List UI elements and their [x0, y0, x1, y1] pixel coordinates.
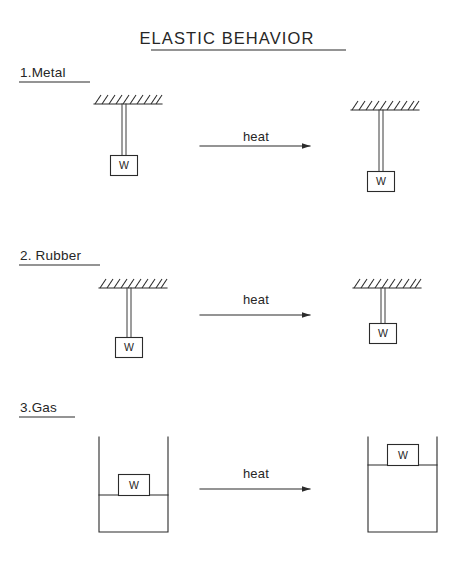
rubber-before-weight: W — [116, 338, 143, 358]
rubber-after-weight-label: W — [378, 327, 388, 339]
section-gas-label-text: 3.Gas — [20, 400, 57, 415]
section-metal-label: 1.Metal — [19, 65, 90, 82]
metal-before-weight-label: W — [119, 159, 129, 171]
rubber-before-assembly: W — [99, 279, 167, 358]
section-gas: 3.Gas W heat — [19, 400, 437, 532]
metal-after-ceiling-icon — [351, 101, 419, 110]
rubber-heat-arrow: heat — [200, 292, 310, 315]
metal-heat-arrow-label: heat — [243, 129, 269, 144]
section-metal-label-text: 1.Metal — [20, 65, 66, 80]
gas-before-weight-label: W — [129, 479, 139, 491]
gas-after-weight: W — [388, 445, 419, 466]
metal-before-weight: W — [111, 156, 138, 176]
rubber-before-ceiling-icon — [99, 279, 167, 288]
section-rubber-label: 2. Rubber — [19, 248, 100, 265]
metal-after-weight: W — [368, 172, 395, 192]
section-gas-label: 3.Gas — [19, 400, 75, 417]
metal-before-ceiling-icon — [94, 95, 162, 104]
metal-before-assembly: W — [94, 95, 162, 176]
rubber-after-assembly: W — [353, 279, 421, 344]
gas-heat-arrow-label: heat — [243, 466, 269, 481]
rubber-heat-arrow-label: heat — [243, 292, 269, 307]
gas-after-assembly: W — [368, 437, 437, 532]
section-rubber-label-text: 2. Rubber — [20, 248, 81, 263]
gas-heat-arrow: heat — [200, 466, 310, 489]
metal-heat-arrow: heat — [200, 129, 310, 146]
section-metal: 1.Metal W heat — [19, 65, 419, 192]
rubber-after-ceiling-icon — [353, 279, 421, 288]
section-rubber: 2. Rubber W heat — [19, 248, 421, 358]
elastic-behavior-figure: ELASTIC BEHAVIOR 1.Metal W — [0, 0, 455, 565]
gas-before-weight: W — [119, 475, 150, 496]
gas-after-weight-label: W — [398, 449, 408, 461]
page-title: ELASTIC BEHAVIOR — [139, 29, 346, 50]
rubber-before-weight-label: W — [124, 341, 134, 353]
metal-after-assembly: W — [351, 101, 419, 192]
gas-before-assembly: W — [99, 437, 168, 532]
page-title-text: ELASTIC BEHAVIOR — [139, 29, 314, 47]
rubber-after-weight: W — [370, 324, 397, 344]
figure-canvas: ELASTIC BEHAVIOR 1.Metal W — [0, 0, 455, 565]
metal-after-weight-label: W — [376, 175, 386, 187]
